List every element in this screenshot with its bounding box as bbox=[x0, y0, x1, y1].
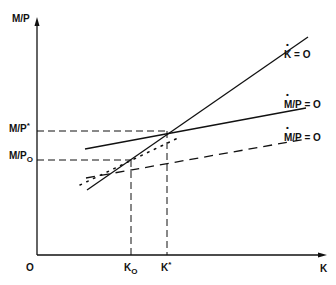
y-axis-arrow-icon bbox=[35, 17, 40, 26]
tick-k-star-mark: * bbox=[168, 260, 171, 269]
curve-mp-dot-zero-dashed bbox=[86, 139, 306, 178]
label-mp-dot-solid-rest: = O bbox=[302, 99, 321, 110]
origin-label: O bbox=[26, 263, 34, 273]
tick-mp-zero-mark: O bbox=[27, 155, 33, 164]
tick-mp-zero-main: M/P bbox=[9, 150, 27, 161]
label-mp-dot-dashed-main: M/P bbox=[284, 132, 302, 143]
label-mp-dot-zero-solid: M/P = O bbox=[284, 100, 321, 110]
tick-mp-star-mark: * bbox=[27, 121, 30, 130]
tick-k-zero-mark: O bbox=[131, 267, 137, 276]
x-axis-label: K bbox=[320, 264, 327, 274]
tick-label-k-star: K* bbox=[161, 263, 171, 273]
label-k-dot-rest: = O bbox=[291, 49, 310, 60]
tick-label-k-zero: KO bbox=[124, 263, 137, 273]
x-axis-label-text: K bbox=[320, 263, 327, 274]
label-mp-dot-zero-dashed: M/P = O bbox=[284, 133, 321, 143]
tick-label-mp-star: M/P* bbox=[9, 124, 30, 134]
label-mp-dot-solid-main: M/P bbox=[284, 99, 302, 110]
y-axis-label: M/P bbox=[12, 14, 30, 24]
origin-label-text: O bbox=[26, 262, 34, 273]
tick-mp-star-main: M/P bbox=[9, 123, 27, 134]
x-axis-arrow-icon bbox=[318, 253, 327, 258]
label-k-dot-main: K bbox=[284, 49, 291, 60]
y-axis-label-text: M/P bbox=[12, 13, 30, 24]
label-k-dot-zero: K = O bbox=[284, 50, 310, 60]
tick-label-mp-zero: M/PO bbox=[9, 151, 33, 161]
label-mp-dot-dashed-rest: = O bbox=[302, 132, 321, 143]
